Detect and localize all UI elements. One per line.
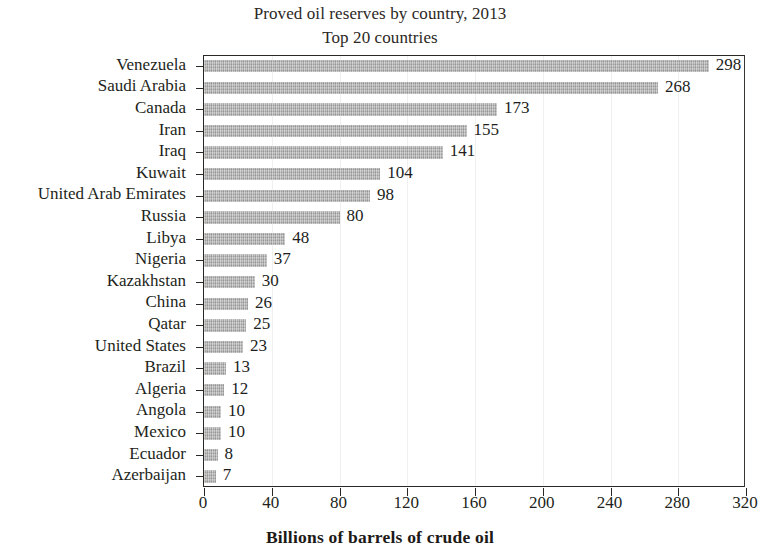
y-axis-label: Iran: [159, 122, 186, 138]
x-axis-tick-label: 40: [241, 493, 301, 513]
bar-value-label: 155: [474, 119, 500, 140]
bar: [204, 276, 255, 288]
bar-value-label: 8: [225, 443, 234, 464]
y-axis-labels: VenezuelaSaudi ArabiaCanadaIranIraqKuwai…: [0, 55, 196, 487]
bar-value-label: 26: [255, 292, 272, 313]
y-axis-tick: [196, 390, 204, 391]
bar: [204, 427, 221, 439]
bar: [204, 341, 243, 353]
y-axis-tick: [196, 304, 204, 305]
chart-title: Proved oil reserves by country, 2013: [0, 2, 760, 26]
bar-value-label: 30: [262, 270, 279, 291]
bar-row: 26: [204, 294, 760, 315]
bar-value-label: 141: [450, 140, 476, 161]
y-axis-tick: [196, 260, 204, 261]
y-axis-label: Mexico: [134, 424, 186, 440]
x-axis-tick-label: 120: [376, 493, 436, 513]
y-axis-tick: [196, 368, 204, 369]
bar: [204, 254, 267, 266]
x-axis-tick-label: 200: [512, 493, 572, 513]
bar-row: 30: [204, 272, 760, 293]
y-axis-tick: [196, 476, 204, 477]
x-axis-title: Billions of barrels of crude oil: [0, 527, 760, 548]
bar-value-label: 48: [292, 227, 309, 248]
bar-row: 25: [204, 315, 760, 336]
bar-value-label: 10: [228, 400, 245, 421]
bar-row: 37: [204, 250, 760, 271]
bar-row: 8: [204, 445, 760, 466]
y-axis-label: Kuwait: [136, 165, 186, 181]
x-axis-tick-label: 240: [580, 493, 640, 513]
y-axis-tick: [196, 239, 204, 240]
y-axis-label: Canada: [135, 100, 186, 116]
chart-figure: Proved oil reserves by country, 2013 Top…: [0, 0, 760, 557]
y-axis-label: Azerbaijan: [111, 467, 186, 483]
bar-row: 173: [204, 99, 760, 120]
y-axis-tick: [196, 66, 204, 67]
bar: [204, 319, 246, 331]
bar-value-label: 13: [233, 356, 250, 377]
y-axis-tick: [196, 455, 204, 456]
y-axis-label: United States: [95, 338, 186, 354]
bar-value-label: 104: [387, 162, 413, 183]
bar: [204, 125, 467, 137]
y-axis-label: Ecuador: [129, 446, 186, 462]
bar-row: 298: [204, 56, 760, 77]
bar: [204, 146, 443, 158]
y-axis-tick: [196, 152, 204, 153]
bar-value-label: 12: [231, 378, 248, 399]
bar-row: 268: [204, 78, 760, 99]
bar: [204, 103, 497, 115]
y-axis-tick: [196, 217, 204, 218]
y-axis-label: Kazakhstan: [107, 273, 186, 289]
bar-row: 12: [204, 380, 760, 401]
bar: [204, 470, 216, 482]
bar-value-label: 37: [274, 248, 291, 269]
y-axis-tick: [196, 174, 204, 175]
bar-value-label: 80: [347, 205, 364, 226]
y-axis-label: Russia: [141, 208, 186, 224]
bar: [204, 298, 248, 310]
bar: [204, 60, 709, 72]
y-axis-label: Angola: [136, 402, 186, 418]
bar: [204, 233, 285, 245]
bar-value-label: 298: [716, 54, 742, 75]
y-axis-label: Qatar: [148, 316, 186, 332]
y-axis-tick: [196, 325, 204, 326]
bar: [204, 211, 340, 223]
bar-row: 13: [204, 358, 760, 379]
bar-row: 23: [204, 337, 760, 358]
bar: [204, 384, 224, 396]
y-axis-tick: [196, 131, 204, 132]
bar-row: 155: [204, 121, 760, 142]
bar-row: 10: [204, 423, 760, 444]
bar-value-label: 268: [665, 76, 691, 97]
bar: [204, 362, 226, 374]
bar-row: 80: [204, 207, 760, 228]
x-axis-tick-label: 0: [173, 493, 233, 513]
bar-value-label: 7: [223, 464, 232, 485]
bar-value-label: 173: [504, 97, 530, 118]
y-axis-tick: [196, 109, 204, 110]
plot-area: 2982681731551411049880483730262523131210…: [203, 55, 745, 487]
bar-row: 48: [204, 229, 760, 250]
x-axis-tick-label: 80: [309, 493, 369, 513]
bar: [204, 168, 380, 180]
bar-row: 10: [204, 402, 760, 423]
y-axis-tick: [196, 412, 204, 413]
y-axis-tick: [196, 282, 204, 283]
bar-value-label: 98: [377, 184, 394, 205]
bar-row: 98: [204, 186, 760, 207]
y-axis-label: China: [145, 294, 186, 310]
bar-value-label: 25: [253, 313, 270, 334]
y-axis-label: Algeria: [135, 381, 186, 397]
bar: [204, 82, 658, 94]
chart-title-block: Proved oil reserves by country, 2013 Top…: [0, 2, 760, 50]
y-axis-label: Saudi Arabia: [98, 78, 186, 94]
x-axis-tick-label: 320: [715, 493, 760, 513]
y-axis-label: Libya: [146, 230, 186, 246]
y-axis-label: United Arab Emirates: [38, 186, 186, 202]
y-axis-label: Brazil: [144, 359, 186, 375]
x-axis-tick-label: 160: [444, 493, 504, 513]
y-axis-tick: [196, 88, 204, 89]
